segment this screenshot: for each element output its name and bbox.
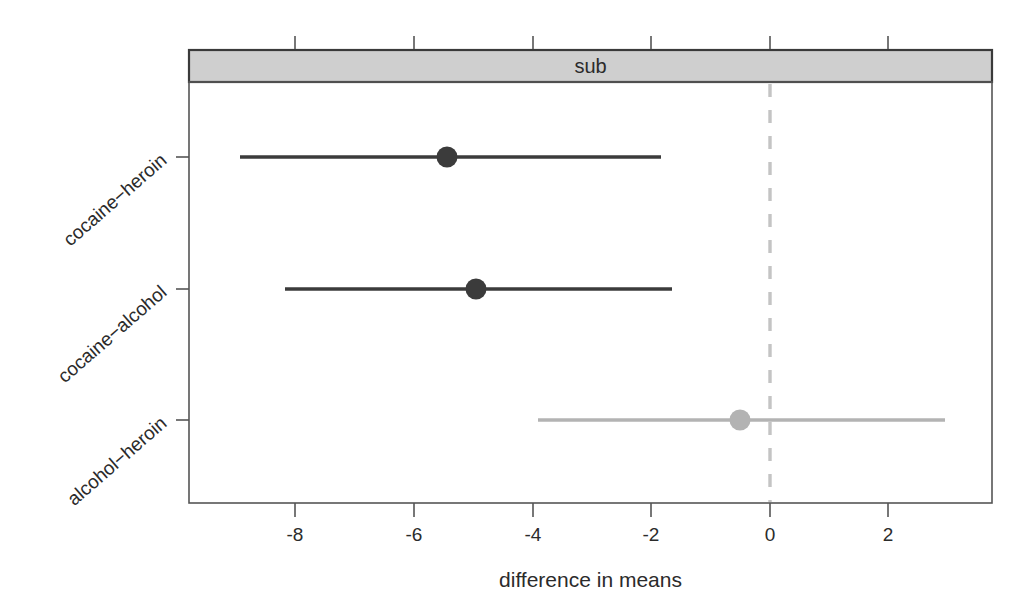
point-estimate-cocaine-alcohol: [466, 279, 487, 300]
y-label-cocaine-heroin: cocaine−heroin: [59, 149, 170, 250]
x-tick-labels: -8 -6 -4 -2 0 2: [287, 524, 894, 545]
interval-alcohol-heroin: [538, 410, 945, 431]
strip-label-text: sub: [574, 55, 606, 77]
bottom-axis-ticks: [295, 503, 888, 517]
left-axis-ticks: [176, 157, 189, 420]
interval-cocaine-heroin: [240, 147, 661, 168]
top-axis-ticks: [295, 36, 888, 49]
x-tick-label--6: -6: [406, 524, 423, 545]
x-axis-title: difference in means: [499, 568, 682, 591]
y-category-labels: cocaine−heroin cocaine−alcohol alcohol−h…: [54, 149, 171, 509]
x-tick-label--4: -4: [525, 524, 542, 545]
x-tick-label-0: 0: [765, 524, 776, 545]
plot-canvas: sub: [0, 0, 1033, 614]
interval-cocaine-alcohol: [285, 279, 672, 300]
x-tick-label--8: -8: [287, 524, 304, 545]
x-tick-label-2: 2: [883, 524, 894, 545]
point-estimate-cocaine-heroin: [437, 147, 458, 168]
x-tick-label--2: -2: [643, 524, 660, 545]
forest-plot-figure: sub: [0, 0, 1033, 614]
y-label-alcohol-heroin: alcohol−heroin: [63, 412, 170, 509]
point-estimate-alcohol-heroin: [730, 410, 751, 431]
panel-strip: sub: [189, 50, 992, 82]
panel-border: [189, 82, 992, 503]
y-label-cocaine-alcohol: cocaine−alcohol: [54, 281, 171, 387]
